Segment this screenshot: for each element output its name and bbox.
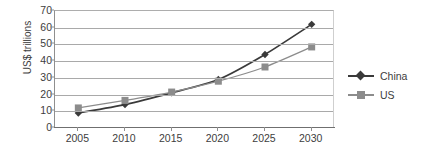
data-point-us-2025 — [262, 63, 269, 70]
legend-marker-diamond-icon — [356, 71, 366, 81]
y-tick-mark — [50, 76, 54, 77]
y-tick-mark — [50, 10, 54, 11]
y-tick-mark — [50, 110, 54, 111]
chart-legend: ChinaUS — [348, 66, 423, 104]
data-point-china-2025 — [261, 51, 268, 58]
y-tick-mark — [50, 43, 54, 44]
legend-swatch-us — [348, 89, 374, 101]
gridline — [55, 95, 333, 96]
x-tick-mark — [264, 127, 265, 131]
legend-marker-square-icon — [357, 91, 365, 99]
x-tick-mark — [77, 127, 78, 131]
gridline — [55, 111, 333, 112]
legend-item-china[interactable]: China — [348, 66, 423, 85]
x-tick-mark — [311, 127, 312, 131]
y-tick-label: 0 — [30, 122, 52, 133]
y-tick-mark — [50, 60, 54, 61]
gridline — [55, 78, 333, 79]
x-tick-mark — [217, 127, 218, 131]
y-tick-label: 10 — [30, 105, 52, 116]
x-tick-mark — [171, 127, 172, 131]
x-axis-tick-labels: 200520102015202020252030 — [0, 132, 423, 148]
x-tick-label: 2015 — [159, 132, 182, 144]
y-tick-mark — [50, 127, 54, 128]
x-tick-label: 2010 — [112, 132, 135, 144]
gridline — [55, 44, 333, 45]
legend-item-us[interactable]: US — [348, 85, 423, 104]
y-tick-label: 50 — [30, 38, 52, 49]
gridline — [55, 61, 333, 62]
y-tick-label: 40 — [30, 55, 52, 66]
y-tick-mark — [50, 93, 54, 94]
x-tick-label: 2005 — [66, 132, 89, 144]
y-tick-label: 70 — [30, 5, 52, 16]
data-point-us-2010 — [122, 97, 129, 104]
x-tick-label: 2030 — [299, 132, 322, 144]
y-tick-label: 30 — [30, 72, 52, 83]
x-tick-label: 2025 — [252, 132, 275, 144]
series-line-china — [78, 24, 311, 113]
x-tick-label: 2020 — [206, 132, 229, 144]
y-tick-label: 20 — [30, 88, 52, 99]
line-chart: US$ trillions 010203040506070 2005201020… — [0, 0, 423, 164]
legend-swatch-china — [348, 70, 374, 82]
legend-label: US — [380, 89, 395, 101]
plot-area — [54, 10, 334, 127]
y-tick-mark — [50, 26, 54, 27]
y-tick-label: 60 — [30, 21, 52, 32]
x-tick-mark — [124, 127, 125, 131]
legend-label: China — [380, 70, 407, 82]
gridline — [55, 28, 333, 29]
